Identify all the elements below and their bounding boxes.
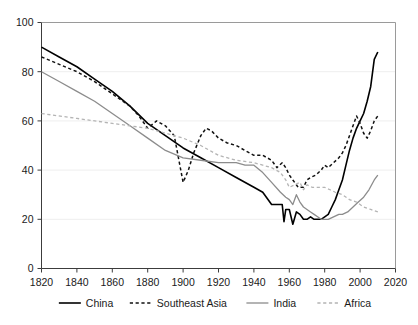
legend-label-southeast-asia: Southeast Asia	[157, 297, 227, 309]
y-tick-labels: 020406080100	[16, 16, 34, 274]
y-tick-label-0: 0	[28, 262, 34, 274]
y-tick-label-100: 100	[16, 16, 34, 28]
line-chart: 020406080100 182018401860188019001920194…	[0, 0, 418, 325]
axes	[42, 23, 396, 269]
x-axis-ticks	[42, 269, 396, 273]
y-tick-label-40: 40	[22, 164, 34, 176]
data-series	[42, 47, 378, 224]
x-tick-label-1840: 1840	[65, 276, 89, 288]
x-tick-label-1980: 1980	[313, 276, 337, 288]
y-tick-label-80: 80	[22, 66, 34, 78]
x-tick-label-1920: 1920	[207, 276, 231, 288]
x-tick-label-1940: 1940	[242, 276, 266, 288]
y-axis-ticks	[38, 23, 42, 269]
x-tick-label-2020: 2020	[384, 276, 408, 288]
x-tick-label-1960: 1960	[278, 276, 302, 288]
legend-label-india: India	[273, 297, 296, 309]
y-tick-label-60: 60	[22, 115, 34, 127]
series-line-china	[42, 47, 378, 224]
y-tick-label-20: 20	[22, 213, 34, 225]
chart-legend: ChinaSoutheast AsiaIndiaAfrica	[59, 297, 372, 309]
x-tick-label-1860: 1860	[101, 276, 125, 288]
x-tick-label-1900: 1900	[171, 276, 195, 288]
legend-label-china: China	[86, 297, 114, 309]
legend-label-africa: Africa	[344, 297, 371, 309]
x-tick-label-2000: 2000	[348, 276, 372, 288]
axis-spines	[42, 23, 396, 269]
x-tick-labels: 1820184018601880190019201940196019802000…	[30, 276, 408, 288]
chart-canvas: 020406080100 182018401860188019001920194…	[0, 0, 418, 325]
x-tick-label-1820: 1820	[30, 276, 54, 288]
series-line-india	[42, 72, 378, 220]
x-tick-label-1880: 1880	[136, 276, 160, 288]
